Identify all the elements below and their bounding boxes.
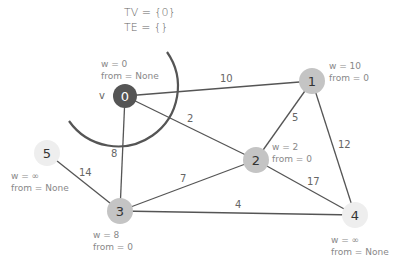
- node-2[interactable]: 2: [243, 147, 269, 173]
- current-vertex-marker: v: [99, 90, 105, 102]
- edge-weight-2-4: 17: [307, 176, 320, 187]
- edge-weight-5-3: 14: [79, 167, 92, 178]
- graph-canvas: 10 2 8 5 12 7 17 4 14 0 1 2 3 4 5: [0, 0, 398, 267]
- edge-weight-1-4: 12: [338, 139, 351, 150]
- node-1-weight: w = 10: [329, 60, 369, 72]
- edge-weight-1-2: 5: [292, 112, 298, 123]
- node-5-weight: w = ∞: [11, 170, 69, 182]
- node-0-from: from = None: [101, 70, 159, 82]
- node-1[interactable]: 1: [299, 68, 325, 94]
- te-set: TE = {}: [124, 20, 175, 35]
- edge-weight-0-2: 2: [187, 113, 193, 124]
- node-4[interactable]: 4: [342, 202, 368, 228]
- node-5[interactable]: 5: [34, 140, 60, 166]
- set-info: TV = {0} TE = {}: [124, 5, 175, 35]
- node-0-weight: w = 0: [101, 58, 159, 70]
- edge-weight-3-4: 4: [235, 199, 241, 210]
- edge-0-3: [120, 96, 125, 211]
- node-0-info: w = 0 from = None: [101, 58, 159, 82]
- edge-0-2: [125, 96, 256, 160]
- tv-set: TV = {0}: [124, 5, 175, 20]
- node-1-from: from = 0: [329, 72, 369, 84]
- node-2-info: w = 2 from = 0: [272, 141, 312, 165]
- edge-weight-0-3: 8: [111, 148, 117, 159]
- node-3[interactable]: 3: [107, 198, 133, 224]
- node-5-info: w = ∞ from = None: [11, 170, 69, 194]
- node-4-from: from = None: [331, 246, 389, 258]
- edge-weight-0-1: 10: [220, 73, 233, 84]
- node-1-info: w = 10 from = 0: [329, 60, 369, 84]
- node-3-from: from = 0: [93, 241, 133, 253]
- node-0[interactable]: 0: [113, 84, 137, 108]
- node-2-weight: w = 2: [272, 141, 312, 153]
- node-5-from: from = None: [11, 182, 69, 194]
- node-5-label: 5: [43, 146, 51, 161]
- edge-0-1: [125, 81, 312, 96]
- node-0-label: 0: [121, 89, 129, 104]
- edge-3-4: [120, 211, 355, 215]
- node-4-weight: w = ∞: [331, 234, 389, 246]
- node-4-label: 4: [351, 208, 359, 223]
- node-2-from: from = 0: [272, 153, 312, 165]
- node-3-label: 3: [116, 204, 124, 219]
- node-4-info: w = ∞ from = None: [331, 234, 389, 258]
- node-3-info: w = 8 from = 0: [93, 229, 133, 253]
- node-2-label: 2: [252, 153, 260, 168]
- node-3-weight: w = 8: [93, 229, 133, 241]
- node-1-label: 1: [308, 74, 316, 89]
- edge-weight-2-3: 7: [180, 173, 186, 184]
